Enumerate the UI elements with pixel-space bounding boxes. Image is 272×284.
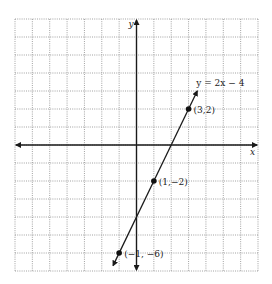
coordinate-plane: xyy = 2x − 4(3,2)(1,−2)(−1, −6) — [0, 0, 272, 284]
data-point — [116, 250, 122, 256]
graph-line-upper — [155, 91, 197, 178]
axes — [16, 20, 257, 270]
equation-label: y = 2x − 4 — [195, 78, 244, 88]
data-point — [186, 106, 192, 112]
data-point — [151, 178, 157, 184]
x-axis-label: x — [250, 147, 255, 157]
point-label: (−1, −6) — [124, 249, 163, 259]
y-axis-label: y — [128, 19, 135, 29]
point-label: (1,−2) — [159, 177, 188, 187]
point-label: (3,2) — [194, 105, 215, 115]
